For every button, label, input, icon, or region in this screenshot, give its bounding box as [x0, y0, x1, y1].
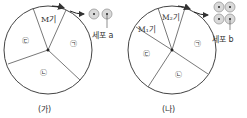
phase-m2-label: M₂기 [162, 13, 180, 22]
caption-ga: (가) [38, 105, 51, 114]
cell-a-label: 세포 a [92, 31, 114, 40]
diagram-na: M₁기 M₂기 ㉠ ㉡ ㉢ 세포 b (나) [128, 2, 235, 114]
caption-na: (나) [162, 105, 175, 114]
phase-b-label: ㉡ [175, 71, 182, 79]
phase-a-label: ㉠ [70, 40, 77, 48]
phase-c-label: ㉢ [22, 37, 29, 45]
phase-m1-label: M₁기 [138, 25, 156, 34]
cell-a-group [89, 9, 112, 28]
cell-b-group [214, 2, 235, 30]
diagram-ga: M기 ㉠ ㉡ ㉢ 세포 a (가) [4, 6, 114, 114]
phase-a-label: ㉠ [194, 40, 201, 48]
cell-cycle-figure: M기 ㉠ ㉡ ㉢ 세포 a (가) M₁기 M₂기 ㉠ ㉡ ㉢ [0, 0, 247, 118]
phase-c-label: ㉢ [143, 50, 150, 58]
phase-b-label: ㉡ [40, 69, 47, 77]
phase-m-label: M기 [41, 15, 56, 24]
cell-b-label: 세포 b [212, 35, 234, 44]
